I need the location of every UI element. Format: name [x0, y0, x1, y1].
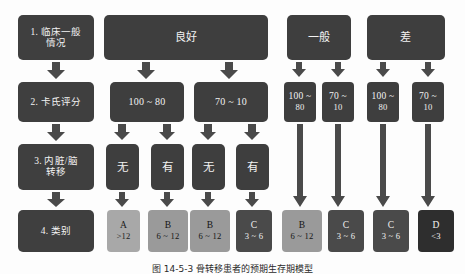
category-box-3: B 6 ~ 12 — [190, 210, 230, 252]
category-grade: B — [284, 220, 320, 231]
arrow-meta4-to-category — [244, 192, 260, 208]
category-box-2: B 6 ~ 12 — [148, 210, 188, 252]
arrow-average-to-score-high — [291, 62, 307, 78]
category-range: 3 ~ 6 — [238, 232, 270, 242]
score-label-line2: 10 — [414, 103, 442, 113]
stage-box-visceral-brain-metastasis: 3. 内脏/脑 转移 — [18, 144, 94, 190]
arrow-meta1-to-category — [114, 192, 130, 208]
metastasis-label: 有 — [238, 161, 267, 174]
arrow-poor-to-score-high — [375, 62, 391, 78]
category-box-4: C 3 ~ 6 — [236, 210, 272, 252]
flowchart-root: 1. 临床一般 情况 2. 卡氏评分 3. 内脏/脑 转移 4. 类别 — [0, 0, 465, 274]
category-range: 3 ~ 6 — [375, 232, 407, 242]
score-label-line1: 100 ~ — [369, 91, 397, 102]
figure-caption: 图 14-5-3 骨转移患者的预期生存期模型 — [0, 263, 465, 274]
score-box-good-high: 100 ~ 80 — [110, 82, 184, 122]
category-grade: A — [109, 220, 138, 231]
stage-label-line2: 情况 — [20, 38, 92, 49]
stage-box-karnofsky: 2. 卡氏评分 — [18, 82, 94, 122]
stage-label-line1: 3. 内脏/脑 — [20, 156, 92, 167]
score-label-line1: 70 ~ — [414, 91, 442, 102]
arrow-meta2-to-category — [159, 192, 175, 208]
condition-box-average: 一般 — [287, 15, 351, 60]
score-box-poor-high: 100 ~ 80 — [367, 82, 399, 122]
arrow-average-to-score-low — [330, 62, 346, 78]
condition-label: 良好 — [106, 31, 266, 43]
category-box-1: A >12 — [107, 210, 140, 252]
metastasis-box-1: 无 — [106, 144, 139, 190]
condition-box-good: 良好 — [104, 15, 268, 60]
category-box-8: D <3 — [418, 210, 454, 252]
arrow-score-good-low-to-meta-none — [199, 124, 217, 141]
stage-label-line1: 4. 类别 — [20, 226, 92, 237]
arrow-stage2-to-stage3 — [46, 124, 66, 142]
score-label: 100 ~ 80 — [112, 96, 182, 107]
category-box-5: B 6 ~ 12 — [282, 210, 322, 252]
stage-label-line2: 转移 — [20, 167, 92, 178]
category-grade: B — [150, 220, 186, 231]
condition-label: 差 — [369, 31, 443, 43]
score-label-line1: 70 ~ — [324, 91, 352, 102]
category-range: 6 ~ 12 — [150, 232, 186, 242]
stage-label-line1: 2. 卡氏评分 — [20, 97, 92, 108]
score-box-average-low: 70 ~ 10 — [322, 82, 354, 122]
arrow-meta3-to-category — [200, 192, 216, 208]
category-grade: C — [238, 220, 270, 231]
arrow-good-to-score-high — [136, 62, 156, 80]
score-label-line2: 80 — [286, 103, 314, 113]
arrow-bypass-average-low-to-category — [330, 124, 346, 208]
condition-box-poor: 差 — [367, 15, 445, 60]
stage-box-category: 4. 类别 — [18, 210, 94, 252]
category-box-7: C 3 ~ 6 — [373, 210, 409, 252]
category-range: 6 ~ 12 — [284, 232, 320, 242]
score-box-good-low: 70 ~ 10 — [194, 82, 268, 122]
metastasis-box-2: 有 — [151, 144, 184, 190]
stage-box-clinical-status: 1. 临床一般 情况 — [18, 15, 94, 60]
arrow-stage3-to-stage4 — [46, 192, 66, 208]
score-box-average-high: 100 ~ 80 — [284, 82, 316, 122]
arrow-poor-to-score-low — [420, 62, 436, 78]
category-grade: D — [420, 220, 452, 231]
category-range: 6 ~ 12 — [192, 232, 228, 242]
arrow-score-good-high-to-meta-yes — [158, 124, 176, 141]
metastasis-label: 无 — [108, 161, 137, 174]
score-label: 70 ~ 10 — [196, 96, 266, 107]
category-box-6: C 3 ~ 6 — [328, 210, 364, 252]
metastasis-label: 无 — [194, 161, 223, 174]
score-label-line2: 80 — [369, 103, 397, 113]
category-grade: C — [375, 220, 407, 231]
arrow-bypass-poor-high-to-category — [375, 124, 391, 208]
arrow-bypass-poor-low-to-category — [420, 124, 436, 208]
arrow-score-good-low-to-meta-yes — [243, 124, 261, 141]
metastasis-label: 有 — [153, 161, 182, 174]
score-label-line2: 10 — [324, 103, 352, 113]
category-grade: B — [192, 220, 228, 231]
condition-label: 一般 — [289, 31, 349, 43]
metastasis-box-4: 有 — [236, 144, 269, 190]
arrow-bypass-average-high-to-category — [292, 124, 308, 208]
metastasis-box-3: 无 — [192, 144, 225, 190]
arrow-stage1-to-stage2 — [46, 62, 66, 80]
score-box-poor-low: 70 ~ 10 — [412, 82, 444, 122]
category-range: 3 ~ 6 — [330, 232, 362, 242]
category-grade: C — [330, 220, 362, 231]
category-range: <3 — [420, 232, 452, 242]
score-label-line1: 100 ~ — [286, 91, 314, 102]
stage-label-line1: 1. 临床一般 — [20, 27, 92, 38]
category-range: >12 — [109, 232, 138, 242]
arrow-score-good-high-to-meta-none — [113, 124, 131, 141]
arrow-good-to-score-low — [219, 62, 239, 80]
